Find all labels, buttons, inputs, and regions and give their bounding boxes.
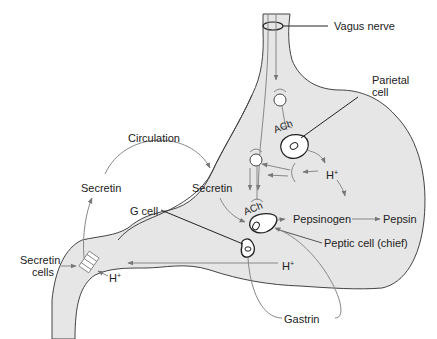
g-cell-shape [241, 239, 254, 257]
label-parietal-line1: Parietal [372, 74, 409, 86]
vagus-ganglion-lower [250, 154, 262, 166]
stomach-outline [52, 14, 425, 339]
h-text: H [282, 260, 290, 272]
label-secretin-cells-line2: cells [32, 266, 54, 278]
circulation-arrow [105, 140, 210, 174]
parietal-cell-shape [281, 135, 308, 159]
label-h-plus-lower: H+ [282, 258, 294, 272]
plus-sup: + [117, 272, 121, 279]
label-pepsin: Pepsin [383, 213, 417, 225]
label-pepsinogen: Pepsinogen [293, 213, 351, 225]
label-parietal-line2: cell [372, 86, 389, 98]
plus-sup: + [290, 260, 294, 267]
label-secretin-left: Secretin [81, 182, 121, 194]
label-circulation: Circulation [128, 132, 180, 144]
plus-sup: + [334, 169, 338, 176]
label-g-cell: G cell [130, 205, 158, 217]
label-secretin-cells-line1: Secretin [20, 254, 60, 266]
label-peptic-cell: Peptic cell (chief) [324, 237, 408, 249]
h-text: H [326, 169, 334, 181]
label-h-plus-duodenum: H+ [109, 270, 121, 284]
h-text: H [109, 272, 117, 284]
digestive-regulation-diagram [0, 0, 437, 339]
label-gastrin: Gastrin [284, 313, 319, 325]
label-h-plus-upper: H+ [326, 167, 338, 181]
vagus-ganglion-upper [274, 94, 286, 106]
label-secretin-right: Secretin [192, 182, 232, 194]
label-vagus-nerve: Vagus nerve [334, 20, 395, 32]
